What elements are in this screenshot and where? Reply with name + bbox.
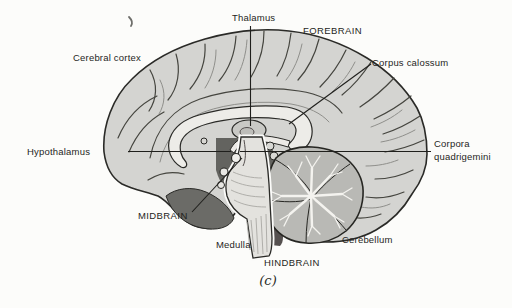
- label-forebrain: FOREBRAIN: [303, 25, 362, 36]
- label-midbrain: MIDBRAIN: [138, 210, 188, 221]
- label-thalamus: Thalamus: [232, 12, 275, 23]
- label-corpora-quadrigemini-line2: quadrigemini: [434, 150, 491, 163]
- pen-mark-artifact: [129, 17, 132, 26]
- label-cerebellum: Cerebellum: [342, 234, 393, 245]
- label-corpora-quadrigemini: Corpora quadrigemini: [434, 137, 491, 163]
- figure-canvas: Cerebral cortex Thalamus FOREBRAIN Corpu…: [0, 0, 512, 308]
- label-medulla: Medulla: [216, 239, 251, 250]
- label-corpus-calossum: Corpus calossum: [372, 57, 448, 68]
- label-hypothalamus: Hypothalamus: [27, 146, 90, 157]
- anterior-commissure-shape: [201, 138, 207, 144]
- label-cerebral-cortex: Cerebral cortex: [73, 52, 141, 63]
- label-corpora-quadrigemini-line1: Corpora: [434, 137, 491, 150]
- figure-caption: (c): [250, 273, 286, 288]
- label-hindbrain: HINDBRAIN: [264, 257, 320, 268]
